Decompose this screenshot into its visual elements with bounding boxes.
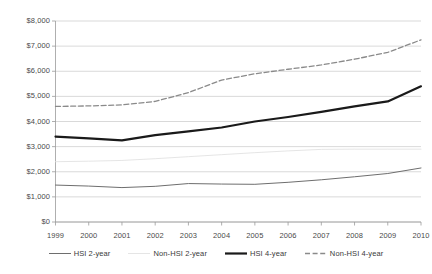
y-axis-tick-label: $5,000: [4, 91, 50, 100]
y-axis-tick-label: $8,000: [4, 16, 50, 25]
legend-item-hsi-4-year[interactable]: HSI 4-year: [225, 249, 287, 258]
x-axis-tick-label: 2002: [137, 231, 173, 240]
x-axis-tick-label: 2009: [370, 231, 406, 240]
x-axis-tick-label: 2001: [104, 231, 140, 240]
legend-swatch-icon: [128, 249, 150, 258]
y-axis-tick-label: $6,000: [4, 66, 50, 75]
legend-swatch-icon: [225, 249, 247, 258]
y-axis-tick-label: $0: [4, 217, 50, 226]
x-axis-tick-label: 2010: [403, 231, 432, 240]
legend-swatch-icon: [49, 249, 71, 258]
legend-swatch-icon: [305, 249, 327, 258]
series-line-hsi-2-year: [56, 168, 422, 188]
legend-label: HSI 4-year: [250, 249, 287, 258]
series-line-non-hsi-2-year: [56, 149, 422, 162]
legend-item-hsi-2-year[interactable]: HSI 2-year: [49, 249, 111, 258]
y-axis-tick-label: $1,000: [4, 192, 50, 201]
y-axis-tick-label: $2,000: [4, 167, 50, 176]
x-axis-tick-label: 2004: [204, 231, 240, 240]
x-axis-tick-label: 2000: [71, 231, 107, 240]
legend-label: Non-HSI 2-year: [153, 249, 207, 258]
legend-label: Non-HSI 4-year: [330, 249, 384, 258]
legend-label: HSI 2-year: [74, 249, 111, 258]
x-axis-tick-label: 2006: [270, 231, 306, 240]
x-axis-tick-label: 2005: [237, 231, 273, 240]
x-axis-tick-label: 1999: [38, 231, 74, 240]
y-axis-tick-label: $3,000: [4, 142, 50, 151]
x-axis-tick-label: 2007: [303, 231, 339, 240]
chart-legend: HSI 2-yearNon-HSI 2-yearHSI 4-yearNon-HS…: [0, 249, 432, 258]
x-axis-tick-label: 2003: [170, 231, 206, 240]
y-axis-tick-label: $7,000: [4, 41, 50, 50]
line-chart: $0$1,000$2,000$3,000$4,000$5,000$6,000$7…: [0, 0, 432, 274]
legend-item-non-hsi-4-year[interactable]: Non-HSI 4-year: [305, 249, 384, 258]
y-axis-tick-label: $4,000: [4, 117, 50, 126]
legend-item-non-hsi-2-year[interactable]: Non-HSI 2-year: [128, 249, 207, 258]
x-axis-tick-label: 2008: [337, 231, 373, 240]
series-line-hsi-4-year: [56, 86, 422, 140]
